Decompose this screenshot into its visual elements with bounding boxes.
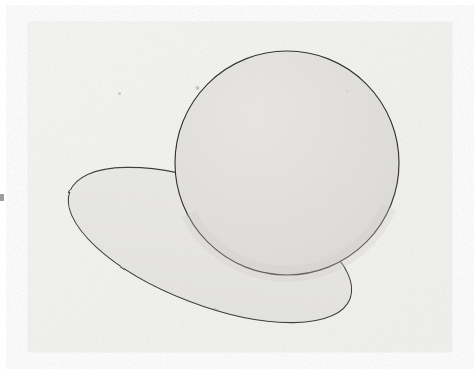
drawing-svg — [0, 0, 476, 374]
left-edge-mark-icon — [0, 194, 4, 201]
speck-upper-mid-icon — [196, 86, 200, 90]
speck-upper-right-icon — [346, 90, 348, 92]
speck-upper-left-icon — [118, 92, 121, 95]
figure-canvas — [0, 0, 476, 374]
